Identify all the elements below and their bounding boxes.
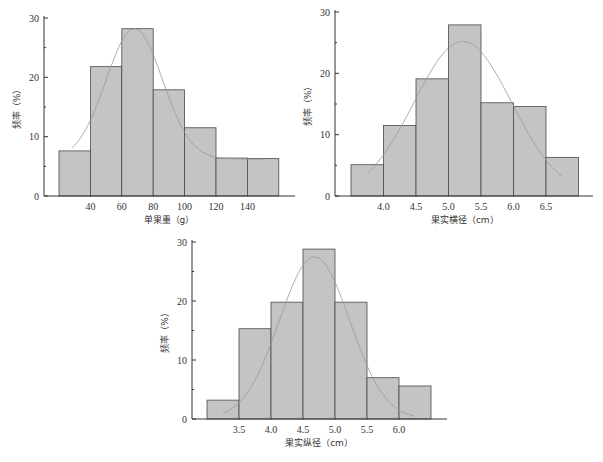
y-tick-label: 20 — [29, 72, 39, 83]
x-tick-label: 80 — [148, 201, 158, 212]
histogram-bar — [351, 165, 384, 196]
x-tick-label: 3.5 — [233, 424, 246, 435]
y-tick-label: 0 — [325, 191, 330, 202]
y-axis-title: 频率（%） — [302, 82, 313, 127]
histogram-bar — [399, 386, 431, 419]
histogram-single-fruit-weight: 0102030406080100120140单果重（g）频率（%） — [11, 13, 295, 226]
y-axis-title: 频率（%） — [159, 308, 170, 353]
histogram-bar — [90, 67, 121, 196]
histogram-bar — [59, 151, 90, 196]
histogram-bar — [449, 25, 482, 196]
x-tick-label: 4.5 — [297, 424, 310, 435]
histogram-bar — [239, 329, 271, 419]
histogram-bar — [384, 125, 417, 196]
y-tick-label: 30 — [320, 7, 330, 18]
figure-canvas: 0102030406080100120140单果重（g）频率（%） 010203… — [0, 0, 603, 462]
histogram-bar — [185, 128, 216, 196]
histogram-bar — [271, 302, 303, 419]
x-tick-label: 4.0 — [265, 424, 278, 435]
y-tick-label: 0 — [182, 414, 187, 425]
histogram-bar — [416, 79, 449, 196]
histogram-bar — [247, 159, 278, 196]
x-tick-label: 140 — [240, 201, 255, 212]
histogram-bar — [303, 249, 335, 419]
y-tick-label: 10 — [29, 131, 39, 142]
histogram-bar — [335, 302, 367, 419]
x-tick-label: 6.0 — [507, 201, 520, 212]
x-tick-label: 6.0 — [393, 424, 406, 435]
x-tick-label: 60 — [117, 201, 127, 212]
x-tick-label: 6.5 — [540, 201, 553, 212]
x-axis-title: 果实纵径（cm） — [285, 437, 353, 448]
y-tick-label: 10 — [320, 129, 330, 140]
x-tick-label: 4.5 — [410, 201, 423, 212]
y-axis-title: 频率（%） — [11, 85, 22, 130]
x-tick-label: 5.0 — [329, 424, 342, 435]
y-tick-label: 10 — [177, 355, 187, 366]
y-tick-label: 30 — [29, 13, 39, 24]
x-tick-label: 4.0 — [377, 201, 390, 212]
histogram-bar — [122, 29, 153, 196]
histogram-fruit-transverse-diameter: 01020304.04.55.05.56.06.5果实横径（cm）频率（%） — [302, 7, 593, 226]
x-tick-label: 120 — [209, 201, 224, 212]
histogram-bar — [367, 378, 399, 419]
x-tick-label: 5.5 — [361, 424, 374, 435]
x-tick-label: 100 — [177, 201, 192, 212]
y-tick-label: 30 — [177, 237, 187, 248]
histogram-bar — [207, 400, 239, 419]
x-axis-title: 单果重（g） — [144, 214, 195, 225]
x-tick-label: 40 — [85, 201, 95, 212]
y-tick-label: 20 — [177, 296, 187, 307]
histogram-fruit-longitudinal-diameter: 01020303.54.04.55.05.56.0果实纵径（cm）频率（%） — [159, 237, 447, 449]
y-tick-label: 20 — [320, 68, 330, 79]
x-tick-label: 5.0 — [442, 201, 455, 212]
histogram-bar — [514, 106, 547, 196]
histogram-bar — [153, 90, 184, 196]
y-tick-label: 0 — [34, 191, 39, 202]
histogram-bar — [216, 158, 247, 196]
x-axis-title: 果实横径（cm） — [431, 214, 499, 225]
x-tick-label: 5.5 — [475, 201, 488, 212]
histogram-bar — [481, 103, 514, 196]
